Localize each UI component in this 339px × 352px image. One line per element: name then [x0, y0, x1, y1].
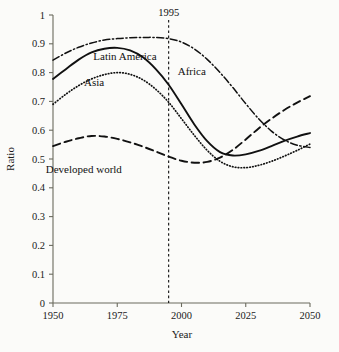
chart-figure: 00.10.20.30.40.50.60.70.80.91 1950197520…	[0, 0, 339, 352]
y-tick-label: 0.8	[32, 67, 45, 78]
y-axis-title: Ratio	[4, 147, 16, 171]
series-label-developed-world: Developed world	[46, 163, 123, 175]
series-line-africa	[53, 37, 310, 147]
series-line-latin-america	[53, 48, 310, 156]
x-tick-label: 2050	[300, 310, 321, 321]
y-tick-label: 0.1	[32, 269, 45, 280]
y-axis-ticks: 00.10.20.30.40.50.60.70.80.91	[32, 10, 53, 309]
x-tick-label: 2000	[171, 310, 192, 321]
y-tick-label: 0.4	[32, 182, 46, 193]
x-tick-label: 1975	[107, 310, 128, 321]
x-axis-ticks: 19501975200020252050	[43, 303, 321, 321]
y-tick-label: 0.2	[32, 240, 45, 251]
line-chart: 00.10.20.30.40.50.60.70.80.91 1950197520…	[0, 0, 339, 352]
x-tick-label: 1950	[43, 310, 64, 321]
series-labels: Latin AmericaAsiaAfricaDeveloped world	[46, 50, 206, 175]
y-tick-label: 0	[40, 298, 45, 309]
reference-labels: 1995	[158, 7, 179, 18]
y-tick-label: 0.6	[32, 125, 45, 136]
series-curves	[53, 37, 310, 167]
series-label-asia: Asia	[84, 76, 104, 88]
x-tick-label: 2025	[235, 310, 256, 321]
y-tick-label: 0.5	[32, 154, 45, 165]
y-tick-label: 0.9	[32, 38, 45, 49]
y-tick-label: 1	[40, 10, 45, 21]
series-label-africa: Africa	[178, 65, 206, 77]
series-line-developed-world	[53, 96, 310, 163]
x-axis-title: Year	[172, 328, 193, 340]
y-tick-label: 0.3	[32, 211, 45, 222]
y-tick-label: 0.7	[32, 96, 45, 107]
series-label-latin-america: Latin America	[93, 50, 156, 62]
reference-line-label-1995: 1995	[158, 7, 179, 18]
